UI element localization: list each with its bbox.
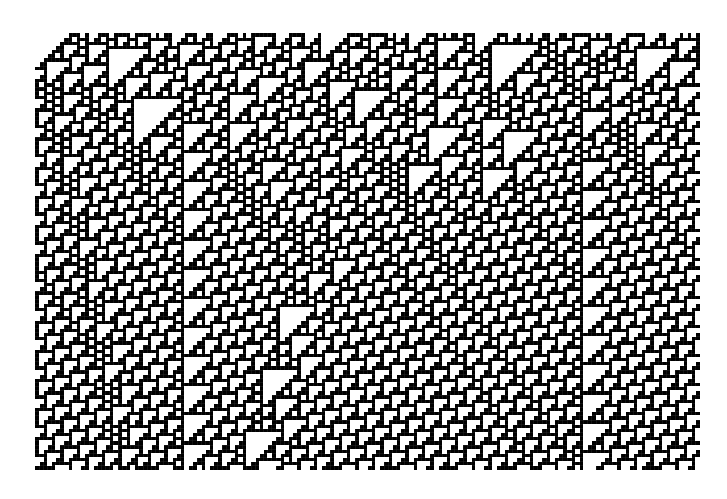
- figure-description: Elementary cellular automaton space-time…: [35, 470, 36, 471]
- automaton-grid-canvas: [35, 33, 700, 470]
- cellular-automaton-figure: Elementary cellular automaton space-time…: [35, 33, 700, 470]
